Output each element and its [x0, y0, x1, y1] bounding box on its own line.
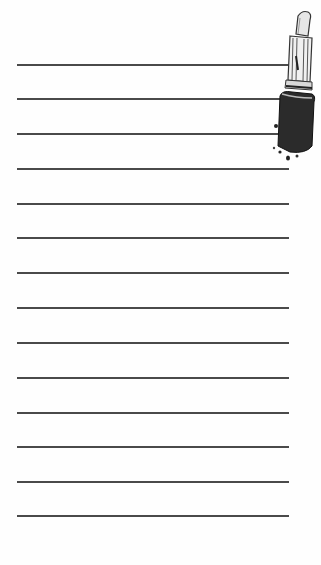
- ruled-line: [17, 237, 289, 239]
- ruled-line: [17, 481, 289, 483]
- ruled-line: [17, 64, 289, 66]
- ruled-line: [17, 133, 289, 135]
- ruled-line: [17, 446, 289, 448]
- lipstick-icon: [262, 6, 318, 166]
- ruled-line: [17, 342, 289, 344]
- ruled-line: [17, 515, 289, 517]
- ruled-line: [17, 168, 289, 170]
- ruled-line: [17, 272, 289, 274]
- notepad-page: [0, 0, 321, 565]
- ruled-line: [17, 98, 289, 100]
- ruled-line: [17, 412, 289, 414]
- ruled-line: [17, 203, 289, 205]
- ruled-line: [17, 377, 289, 379]
- ruled-line: [17, 307, 289, 309]
